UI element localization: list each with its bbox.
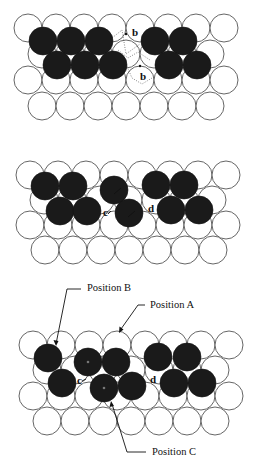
substrate-atom xyxy=(140,92,168,120)
adatom xyxy=(34,344,62,372)
substrate-atom xyxy=(87,236,115,264)
site-label-c: c xyxy=(103,206,108,218)
substrate-atom xyxy=(59,236,87,264)
adatom xyxy=(48,369,76,397)
substrate-atom xyxy=(28,92,56,120)
substrate-atom xyxy=(210,66,238,94)
site-label-c: c xyxy=(77,374,82,386)
substrate-atom xyxy=(61,407,89,435)
substrate-atom xyxy=(215,382,243,410)
substrate-atom xyxy=(212,161,240,189)
adatom xyxy=(169,27,197,55)
adatom xyxy=(29,27,57,55)
adatom xyxy=(183,51,211,79)
adatom xyxy=(170,171,198,199)
position-b-label: Position B xyxy=(87,282,131,293)
adatom xyxy=(185,196,213,224)
adatom xyxy=(46,197,74,225)
substrate-atom xyxy=(196,92,224,120)
site-label-d: d xyxy=(148,202,154,214)
adatom xyxy=(43,51,71,79)
substrate-atom xyxy=(14,66,42,94)
substrate-atom xyxy=(112,92,140,120)
site-dot xyxy=(103,387,106,390)
adatom xyxy=(31,172,59,200)
substrate-atom xyxy=(84,92,112,120)
substrate-atom xyxy=(89,407,117,435)
substrate-atom xyxy=(31,236,59,264)
position-c-label: Position C xyxy=(152,446,196,457)
site-label-b-bottom: b xyxy=(140,70,146,82)
adatom xyxy=(115,199,143,227)
adatom xyxy=(85,27,113,55)
adatom xyxy=(102,348,130,376)
adatom xyxy=(142,171,170,199)
substrate-atom xyxy=(33,407,61,435)
adatom xyxy=(71,51,99,79)
substrate-atom xyxy=(201,407,229,435)
adatom xyxy=(157,196,185,224)
adatom xyxy=(141,27,169,55)
site-label-d: d xyxy=(150,373,156,385)
substrate-atom xyxy=(199,236,227,264)
site-dot xyxy=(139,65,141,67)
panel-1: b b xyxy=(14,14,238,120)
substrate-atom xyxy=(173,407,201,435)
substrate-atom xyxy=(56,92,84,120)
adatom xyxy=(118,372,146,400)
substrate-atom xyxy=(117,407,145,435)
adatom xyxy=(160,369,188,397)
substrate-atom xyxy=(115,236,143,264)
substrate-atom xyxy=(215,331,243,359)
panel-2: c d xyxy=(16,161,240,264)
site-dot xyxy=(87,361,90,364)
panel-3: c d Position B Position A Position C xyxy=(19,282,243,457)
adatom xyxy=(188,369,216,397)
substrate-atom xyxy=(210,14,238,42)
adatom xyxy=(99,51,127,79)
position-a-leader xyxy=(121,305,145,329)
adatom xyxy=(57,27,85,55)
substrate-atom xyxy=(19,382,47,410)
adatom xyxy=(173,343,201,371)
site-label-b-top: b xyxy=(132,26,138,38)
substrate-atom xyxy=(16,211,44,239)
position-a-label: Position A xyxy=(150,299,194,310)
substrate-atom xyxy=(171,236,199,264)
adatom xyxy=(144,343,172,371)
substrate-atom xyxy=(143,236,171,264)
adatom-diagram: b b c d c d Position B Position A Positi… xyxy=(0,0,256,464)
adatom xyxy=(59,172,87,200)
substrate-atom xyxy=(212,211,240,239)
substrate-atom xyxy=(168,92,196,120)
adatom xyxy=(73,197,101,225)
adatom xyxy=(155,51,183,79)
site-dot xyxy=(125,33,127,35)
substrate-atom xyxy=(145,407,173,435)
